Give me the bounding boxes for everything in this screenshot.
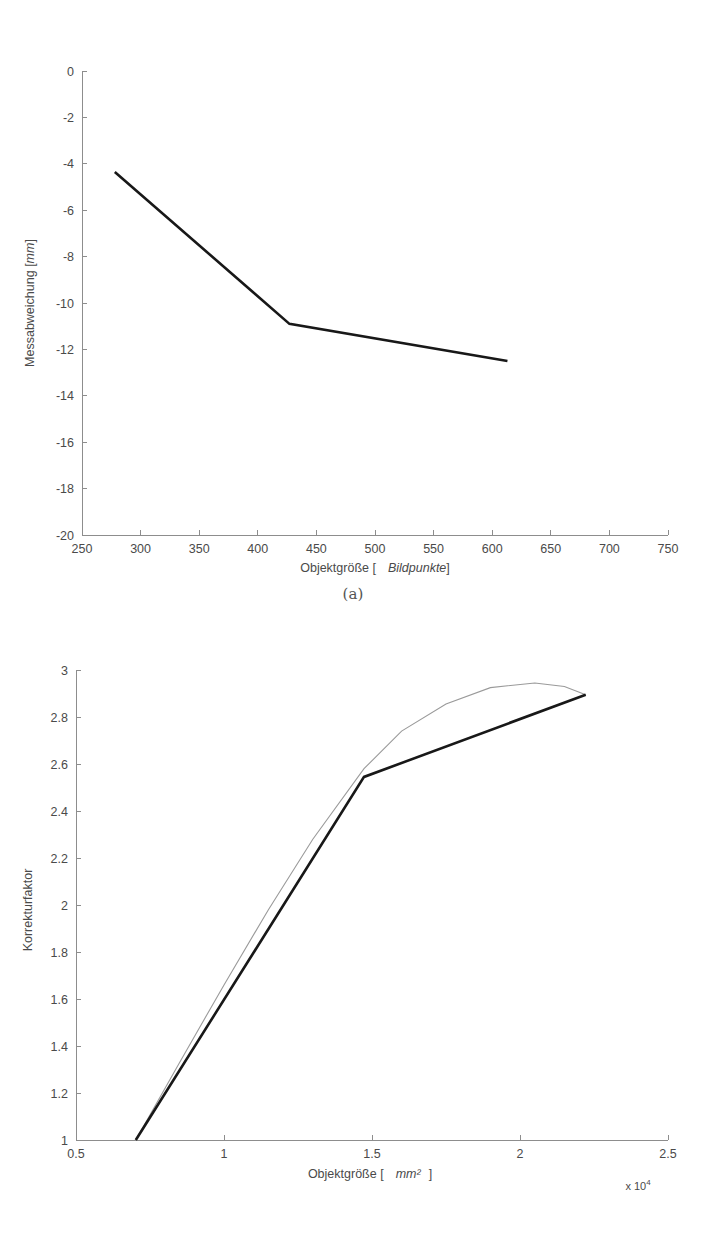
x-axis-ticks-a: 250300350400450500550600650700750 xyxy=(72,530,679,556)
x-axis-title-b-plain: Objektgröße [ xyxy=(308,1167,384,1181)
subfigure-caption-a: (a) xyxy=(0,585,706,603)
x-tick-label-6: 550 xyxy=(423,542,444,556)
y-tick-label-9: 2.8 xyxy=(51,711,68,725)
y-tick-label-8: -16 xyxy=(56,436,74,450)
y-axis-title-b: Korrekturfaktor xyxy=(21,869,35,952)
y-tick-label-4: 1.8 xyxy=(51,946,68,960)
y-tick-label-0: 0 xyxy=(67,65,74,79)
x-axis-title-a: Objektgröße [Bildpunkte] xyxy=(300,561,450,575)
y-tick-label-1: -2 xyxy=(63,111,74,125)
y-tick-label-6: 2.2 xyxy=(51,852,68,866)
y-tick-label-10: 3 xyxy=(61,664,68,678)
series-messabweichung xyxy=(115,172,508,361)
x-tick-label-9: 700 xyxy=(599,542,620,556)
y-tick-label-7: -14 xyxy=(56,389,74,403)
x-axis-title-b-italic: mm² xyxy=(396,1167,422,1181)
x-tick-label-0: 0.5 xyxy=(67,1147,84,1161)
x-tick-label-1: 300 xyxy=(130,542,151,556)
y-tick-label-2: 1.4 xyxy=(51,1040,68,1054)
y-tick-label-7: 2.4 xyxy=(51,805,68,819)
x-axis-multiplier-exponent: 4 xyxy=(646,1178,651,1187)
y-axis-title-a-plain: Messabweichung [ xyxy=(23,263,37,367)
x-axis-multiplier-base: x 10 xyxy=(625,1180,646,1192)
y-tick-label-6: -12 xyxy=(56,343,74,357)
x-tick-label-3: 2 xyxy=(517,1147,524,1161)
x-tick-label-10: 750 xyxy=(658,542,679,556)
svg-text:Messabweichung [mm]: Messabweichung [mm] xyxy=(23,239,37,367)
series-korrekturfaktor-modell xyxy=(136,683,586,1140)
x-axis-title-a-plain: Objektgröße [ xyxy=(300,561,376,575)
y-tick-label-3: 1.6 xyxy=(51,993,68,1007)
y-tick-label-9: -18 xyxy=(56,482,74,496)
y-tick-label-4: -8 xyxy=(63,250,74,264)
y-axis-title-a-tail: ] xyxy=(23,239,37,242)
x-tick-label-2: 1.5 xyxy=(363,1147,380,1161)
x-tick-label-3: 400 xyxy=(247,542,268,556)
x-axis-ticks-b: 0.511.522.5 xyxy=(67,1135,676,1161)
chart-messabweichung: 0-2-4-6-8-10-12-14-16-18-20 250300350400… xyxy=(0,0,706,630)
series-korrekturfaktor-linear xyxy=(136,695,586,1140)
y-axis-title-a-italic: mm xyxy=(23,243,37,264)
y-axis-title-a: Messabweichung [mm] xyxy=(23,239,37,367)
y-tick-label-8: 2.6 xyxy=(51,758,68,772)
y-axis-title-b-text: Korrekturfaktor xyxy=(21,869,35,952)
x-axis-multiplier-b: x 104 xyxy=(625,1178,651,1192)
x-tick-label-5: 500 xyxy=(365,542,386,556)
x-tick-label-8: 650 xyxy=(540,542,561,556)
y-tick-label-3: -6 xyxy=(63,204,74,218)
x-axis-title-a-italic: Bildpunkte xyxy=(388,561,446,575)
x-tick-label-2: 350 xyxy=(189,542,210,556)
x-tick-label-0: 250 xyxy=(72,542,93,556)
x-tick-label-1: 1 xyxy=(221,1147,228,1161)
x-axis-title-a-tail: ] xyxy=(446,561,449,575)
y-tick-label-2: -4 xyxy=(63,157,74,171)
x-tick-label-7: 600 xyxy=(482,542,503,556)
figure-a: 0-2-4-6-8-10-12-14-16-18-20 250300350400… xyxy=(0,0,706,630)
y-tick-label-10: -20 xyxy=(56,529,74,543)
y-tick-label-5: -10 xyxy=(56,297,74,311)
figure-b: 11.21.41.61.822.22.42.62.83 0.511.522.5 … xyxy=(0,620,706,1252)
chart-korrekturfaktor: 11.21.41.61.822.22.42.62.83 0.511.522.5 … xyxy=(0,620,706,1252)
y-tick-label-5: 2 xyxy=(61,899,68,913)
x-tick-label-4: 2.5 xyxy=(659,1147,676,1161)
x-tick-label-4: 450 xyxy=(306,542,327,556)
y-tick-label-0: 1 xyxy=(61,1134,68,1148)
x-axis-title-b-tail: ] xyxy=(429,1167,432,1181)
x-axis-title-b: Objektgröße [mm²] xyxy=(308,1167,432,1181)
y-tick-label-1: 1.2 xyxy=(51,1087,68,1101)
